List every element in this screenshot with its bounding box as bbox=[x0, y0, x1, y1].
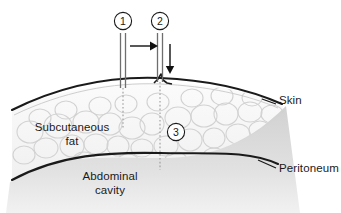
callout-1: 1 bbox=[114, 12, 131, 29]
diagram-canvas: 1 2 3 Skin Peritoneum Subcutaneous fat A… bbox=[0, 0, 341, 213]
anatomical-diagram: 1 2 3 Skin Peritoneum Subcutaneous fat A… bbox=[0, 0, 341, 213]
advance-arrow-head bbox=[150, 42, 158, 51]
advance-arrow bbox=[130, 42, 158, 51]
callout-3: 3 bbox=[167, 123, 184, 140]
abdominal-cavity-label-line1: Abdominal bbox=[82, 170, 137, 182]
abdominal-cavity-label-line2: cavity bbox=[95, 184, 125, 196]
subcutaneous-fat-label-line1: Subcutaneous bbox=[35, 121, 110, 133]
insertion-arrow bbox=[166, 44, 174, 74]
callout-2: 2 bbox=[151, 12, 168, 29]
subcutaneous-fat-label-line2: fat bbox=[65, 135, 79, 147]
peritoneum-label: Peritoneum bbox=[279, 162, 339, 174]
insertion-arrow-head bbox=[166, 66, 174, 74]
skin-label: Skin bbox=[279, 94, 302, 106]
callout-1-number: 1 bbox=[120, 15, 126, 27]
callout-3-number: 3 bbox=[173, 126, 179, 138]
callout-2-number: 2 bbox=[157, 15, 163, 27]
